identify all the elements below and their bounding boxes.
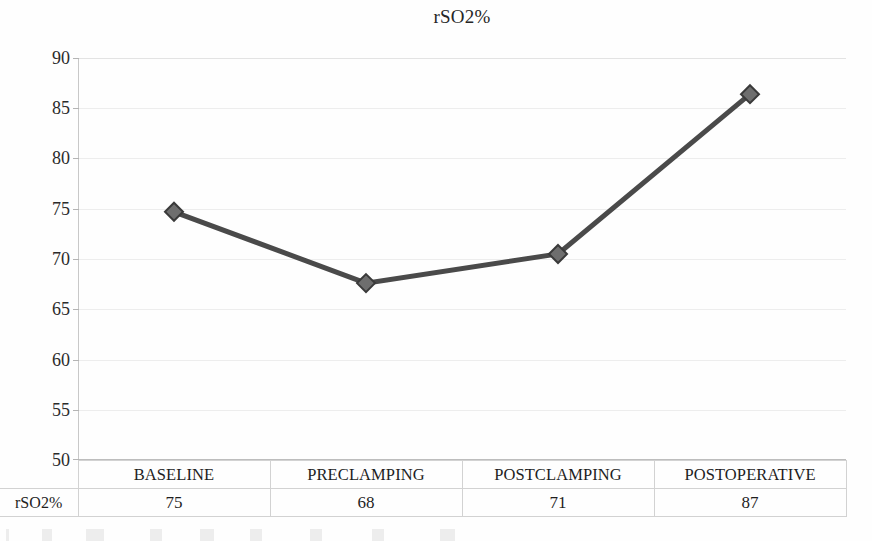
y-axis-label-75: 75 <box>18 200 70 218</box>
table-value-baseline: 75 <box>78 489 270 517</box>
table-value-postoperative: 87 <box>654 489 846 517</box>
table-category-postclamping: POSTCLAMPING <box>462 461 654 489</box>
y-axis-label-85: 85 <box>18 99 70 117</box>
table-category-preclamping: PRECLAMPING <box>270 461 462 489</box>
y-axis-label-80: 80 <box>18 149 70 167</box>
data-table: BASELINE PRECLAMPING POSTCLAMPING POSTOP… <box>0 460 847 517</box>
table-row-categories: BASELINE PRECLAMPING POSTCLAMPING POSTOP… <box>0 461 846 489</box>
series-markers <box>165 85 759 292</box>
table-category-postoperative: POSTOPERATIVE <box>654 461 846 489</box>
table-row-values: rSO2% 75 68 71 87 <box>0 489 846 517</box>
table-category-baseline: BASELINE <box>78 461 270 489</box>
data-point-baseline <box>165 203 183 221</box>
table-corner-cell <box>0 461 78 489</box>
data-series-rso2 <box>78 58 846 460</box>
chart-title: rSO2% <box>78 6 846 28</box>
y-axis-label-55: 55 <box>18 401 70 419</box>
table-value-preclamping: 68 <box>270 489 462 517</box>
y-axis-label-90: 90 <box>18 49 70 67</box>
y-axis-label-65: 65 <box>18 300 70 318</box>
y-axis-label-60: 60 <box>18 351 70 369</box>
y-axis-label-70: 70 <box>18 250 70 268</box>
series-line <box>174 94 750 283</box>
plot-area <box>78 58 846 460</box>
chart-page: rSO2% 90 85 80 75 70 65 60 55 50 <box>0 0 872 541</box>
scan-artifact-strip <box>0 529 872 541</box>
table-value-postclamping: 71 <box>462 489 654 517</box>
data-point-preclamping <box>357 274 375 292</box>
table-row-label: rSO2% <box>0 489 78 517</box>
